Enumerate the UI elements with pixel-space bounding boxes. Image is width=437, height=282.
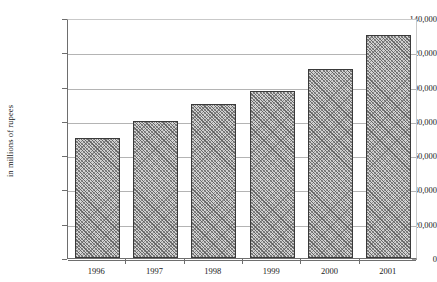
gridline [68, 123, 416, 124]
x-axis-tick-mark [125, 259, 126, 264]
x-axis-tick-mark [242, 259, 243, 264]
gridline [68, 226, 416, 227]
gridline [68, 157, 416, 158]
gridline [68, 191, 416, 192]
bar-chart: in millions of rupees 020,00040,00060,00… [0, 0, 437, 282]
bar [133, 121, 178, 258]
gridline [68, 54, 416, 55]
x-axis-tick-label: 1999 [242, 266, 300, 276]
bar [191, 104, 236, 258]
x-axis-tick-label: 1998 [184, 266, 242, 276]
x-axis-tick-label: 1997 [125, 266, 183, 276]
bar [308, 69, 353, 258]
y-axis-title: in millions of rupees [0, 0, 20, 282]
bar [366, 35, 411, 258]
plot-area [67, 19, 417, 259]
bar [250, 91, 295, 258]
x-axis-tick-mark [359, 259, 360, 264]
y-axis-title-label: in millions of rupees [5, 105, 15, 177]
x-axis-tick-label: 2000 [300, 266, 358, 276]
x-axis-tick-mark [184, 259, 185, 264]
gridline [68, 89, 416, 90]
x-axis-tick-label: 1996 [67, 266, 125, 276]
x-axis-tick-label: 2001 [359, 266, 417, 276]
bar [75, 138, 120, 258]
y-axis-tick-mark [62, 259, 67, 260]
x-axis-tick-mark [300, 259, 301, 264]
